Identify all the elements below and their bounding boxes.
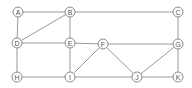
edge-b-d — [17, 12, 70, 43]
node-label: F — [101, 41, 105, 48]
node-k: K — [173, 72, 183, 82]
edge-f-i — [70, 44, 103, 77]
node-i: I — [65, 72, 75, 82]
node-label: J — [135, 74, 139, 81]
node-e: E — [65, 38, 75, 48]
edge-f-j — [103, 44, 137, 77]
node-label: D — [14, 40, 19, 47]
node-label: B — [68, 9, 73, 16]
node-a: A — [13, 7, 23, 17]
node-label: I — [69, 74, 71, 81]
node-j: J — [132, 72, 142, 82]
node-f: F — [98, 39, 108, 49]
node-label: E — [68, 40, 73, 47]
node-label: H — [14, 74, 19, 81]
edges — [17, 12, 178, 77]
edge-g-j — [137, 44, 178, 77]
node-c: C — [173, 7, 183, 17]
node-b: B — [65, 7, 75, 17]
node-g: G — [173, 39, 183, 49]
node-label: C — [175, 9, 180, 16]
node-d: D — [12, 38, 22, 48]
graph-diagram: ABCDEFGHIJK — [0, 0, 192, 88]
node-label: A — [16, 9, 21, 16]
node-label: G — [175, 41, 180, 48]
node-h: H — [12, 72, 22, 82]
node-label: K — [176, 74, 181, 81]
